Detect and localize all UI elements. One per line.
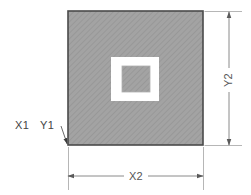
diagram-canvas: Y2 X2 X1 Y1 <box>0 0 251 195</box>
origin-y-label: Y1 <box>40 119 54 131</box>
origin-x-label: X1 <box>15 119 29 131</box>
x2-dimension: X2 <box>68 167 203 184</box>
inner-island <box>122 66 150 92</box>
y2-dimension: Y2 <box>221 12 238 145</box>
origin-callout: X1 Y1 <box>15 119 67 144</box>
cad-dimension-diagram: Y2 X2 X1 Y1 <box>0 0 251 195</box>
y2-label: Y2 <box>222 73 234 87</box>
origin-leader-line <box>61 126 67 144</box>
x2-label: X2 <box>129 170 143 182</box>
